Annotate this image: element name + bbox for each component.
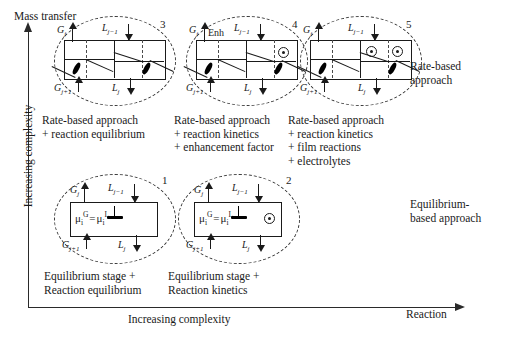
cell-4-caption-line2: + reaction kinetics bbox=[174, 128, 274, 142]
cell-1-gas-in-label: Gj+1 bbox=[62, 239, 79, 253]
cell-5-liquid-out-label: Lj bbox=[358, 82, 366, 96]
cell-2-gas-out-arrow-icon bbox=[205, 182, 213, 189]
cell-1-liquid-in-arrow-icon bbox=[131, 196, 139, 203]
x-axis-arrow-icon bbox=[455, 303, 465, 311]
cell-3-gas-out-label: Gj bbox=[57, 24, 66, 38]
cell-4-reaction-circle-bulk bbox=[278, 47, 289, 58]
cell-5-caption-line2: + reaction kinetics bbox=[288, 128, 384, 142]
cell-3-interface-line bbox=[114, 40, 115, 78]
cell-4-caption: Rate-based approach + reaction kinetics … bbox=[174, 114, 274, 155]
cell-4-liquid-in-arrow-icon bbox=[257, 34, 265, 41]
cell-2-liquid-in-arrow-icon bbox=[255, 196, 263, 203]
cell-4: 4 Enh Gj Lj−1 Gj+1 Lj Rate-based approac… bbox=[182, 14, 314, 110]
cell-2-gas-out-label: Gj bbox=[194, 184, 203, 198]
cell-4-liquid-out-arrow-icon bbox=[259, 88, 267, 95]
cell-2-liquid-in-label: Lj−1 bbox=[232, 182, 248, 196]
cell-1-gas-in-arrow-icon bbox=[83, 233, 91, 240]
figure-canvas: Mass transfer Increasing complexity Incr… bbox=[0, 0, 507, 343]
cell-5-liquid-in-arrow-icon bbox=[371, 34, 379, 41]
cell-4-caption-line3: + enhancement factor bbox=[174, 141, 274, 155]
cell-2-liquid-out-arrow-icon bbox=[257, 245, 265, 252]
cell-2-caption-line1: Equilibrium stage + bbox=[168, 270, 259, 284]
cell-3: 3 Gj Lj−1 Gj+1 Lj Rate-based approach + … bbox=[50, 14, 182, 110]
cell-3-caption-line2: + reaction equilibrium bbox=[42, 128, 145, 142]
cell-4-liquid-in-label: Lj−1 bbox=[234, 22, 250, 36]
cell-5-caption-line1: Rate-based approach bbox=[288, 114, 384, 128]
cell-1-liquid-out-arrow-icon bbox=[133, 245, 141, 252]
cell-4-gas-out-arrow-icon bbox=[201, 22, 209, 29]
cell-2: 2 μiG = μiL Gj Lj−1 Gj+1 Lj Equilibrium … bbox=[174, 172, 306, 268]
cell-5-gas-out-label: Gj bbox=[303, 24, 312, 38]
cell-2-reaction-equilibrium-symbol bbox=[231, 206, 247, 220]
cell-1-caption: Equilibrium stage + Reaction equilibrium bbox=[44, 270, 141, 297]
cell-2-liquid-out-label: Lj bbox=[242, 239, 250, 253]
cell-4-gas-in-arrow-icon bbox=[207, 76, 215, 83]
cell-4-liquid-out-label: Lj bbox=[244, 82, 252, 96]
cell-2-number: 2 bbox=[286, 174, 292, 186]
cell-3-liquid-out-label: Lj bbox=[112, 82, 120, 96]
cell-2-anvil-base bbox=[231, 216, 247, 219]
cell-4-gas-in-label: Gj+1 bbox=[186, 82, 203, 96]
cell-3-caption-line1: Rate-based approach bbox=[42, 114, 145, 128]
side-label-equilibrium-based: Equilibrium- based approach bbox=[410, 198, 481, 225]
cell-5-interface-line bbox=[360, 40, 361, 78]
cell-1-caption-line1: Equilibrium stage + bbox=[44, 270, 141, 284]
cell-5-gas-out-arrow-icon bbox=[315, 22, 323, 29]
cell-1-anvil-base bbox=[107, 216, 123, 219]
cell-5-reaction-circle-bulk bbox=[392, 46, 403, 57]
cell-5-caption: Rate-based approach + reaction kinetics … bbox=[288, 114, 384, 168]
cell-5-liquid-in-label: Lj−1 bbox=[348, 22, 364, 36]
side-label-equilibrium-based-line1: Equilibrium- bbox=[410, 198, 481, 212]
cell-4-enhancement-label: Enh bbox=[208, 27, 224, 38]
y-axis-label: Increasing complexity bbox=[22, 76, 34, 236]
cell-5: 5 Gj Lj−1 Gj+1 Lj Rate-based approach + … bbox=[296, 14, 428, 110]
y-axis-arrow-icon bbox=[24, 22, 32, 32]
cell-1-liquid-in-label: Lj−1 bbox=[108, 182, 124, 196]
cell-1-reaction-equilibrium-symbol bbox=[107, 206, 123, 220]
cell-1-caption-line2: Reaction equilibrium bbox=[44, 284, 141, 298]
cell-2-caption-line2: Reaction kinetics bbox=[168, 284, 259, 298]
cell-5-number: 5 bbox=[406, 18, 412, 30]
cell-1-gas-out-arrow-icon bbox=[81, 182, 89, 189]
cell-5-reaction-circle-film bbox=[366, 46, 377, 57]
cell-1-liquid-out-label: Lj bbox=[118, 239, 126, 253]
cell-1: 1 μiG = μiL Gj Lj−1 Gj+1 Lj Equilibrium … bbox=[50, 172, 182, 268]
cell-5-gas-in-label: Gj+1 bbox=[300, 82, 317, 96]
cell-5-caption-line3: + film reactions bbox=[288, 141, 384, 155]
cell-3-gas-in-label: Gj+1 bbox=[54, 82, 71, 96]
cell-5-liquid-out-arrow-icon bbox=[373, 88, 381, 95]
cell-3-liquid-in-arrow-icon bbox=[125, 34, 133, 41]
x-axis-end-label: Reaction bbox=[406, 308, 447, 320]
cell-2-gas-in-label: Gj+1 bbox=[186, 239, 203, 253]
cell-5-gas-in-arrow-icon bbox=[321, 76, 329, 83]
cell-2-caption: Equilibrium stage + Reaction kinetics bbox=[168, 270, 259, 297]
cell-3-caption: Rate-based approach + reaction equilibri… bbox=[42, 114, 145, 141]
cell-3-number: 3 bbox=[160, 18, 166, 30]
x-axis-line bbox=[28, 307, 458, 308]
cell-2-reaction-kinetics-circle bbox=[264, 213, 275, 224]
cell-5-caption-line4: + electrolytes bbox=[288, 155, 384, 169]
cell-3-liquid-out-arrow-icon bbox=[127, 88, 135, 95]
cell-4-gas-out-label: Gj bbox=[189, 24, 198, 38]
side-label-equilibrium-based-line2: based approach bbox=[410, 212, 481, 226]
cell-2-equilibrium-equation: μiG = μiL bbox=[199, 210, 233, 227]
x-axis-label: Increasing complexity bbox=[128, 313, 231, 325]
cell-1-number: 1 bbox=[162, 174, 168, 186]
cell-3-gas-out-arrow-icon bbox=[69, 22, 77, 29]
cell-1-equilibrium-equation: μiG = μiL bbox=[75, 210, 109, 227]
cell-4-interface-line bbox=[246, 40, 247, 78]
cell-1-gas-out-label: Gj bbox=[70, 184, 79, 198]
cell-3-gas-in-arrow-icon bbox=[75, 76, 83, 83]
cell-4-caption-line1: Rate-based approach bbox=[174, 114, 274, 128]
cell-3-liquid-in-label: Lj−1 bbox=[102, 22, 118, 36]
cell-2-gas-in-arrow-icon bbox=[207, 233, 215, 240]
